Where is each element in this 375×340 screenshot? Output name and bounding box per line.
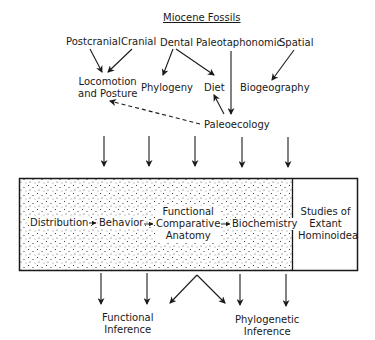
label-postcranial: Postcranial bbox=[66, 36, 121, 48]
phylogenetic-line2: Inference bbox=[235, 326, 299, 338]
locomotion-line1: Locomotion bbox=[78, 76, 137, 88]
label-paleotaphonomic: Paleotaphonomic bbox=[196, 37, 282, 49]
arrow-dental-to-diet bbox=[176, 49, 214, 75]
arrow-cranial-to-locomotion bbox=[108, 49, 132, 72]
diagram-title: Miocene Fossils bbox=[163, 12, 241, 24]
arrow-out-right-branch bbox=[197, 275, 225, 303]
label-studies-of-extant-hominoidea: Studies of Extant Hominoidea bbox=[298, 206, 353, 242]
label-spatial: Spatial bbox=[279, 37, 313, 49]
label-phylogenetic-inference: Phylogenetic Inference bbox=[235, 314, 299, 338]
fca-line3: Anatomy bbox=[155, 230, 221, 242]
functional-line1: Functional bbox=[102, 312, 153, 324]
label-cranial: Cranial bbox=[121, 36, 156, 48]
arrow-paleoecology-to-diet bbox=[214, 95, 224, 114]
arrow-dental-to-phylogeny bbox=[163, 49, 173, 75]
dashed-arrow-paleoecology-to-locomotion bbox=[110, 101, 200, 124]
label-locomotion-and-posture: Locomotion and Posture bbox=[78, 76, 137, 100]
diagram-canvas bbox=[0, 0, 375, 340]
label-dental: Dental bbox=[160, 37, 193, 49]
label-phylogeny: Phylogeny bbox=[141, 82, 193, 94]
label-functional-comparative-anatomy: Functional Comparative Anatomy bbox=[155, 206, 221, 242]
output-arrows bbox=[101, 273, 286, 306]
extant-line3: Hominoidea bbox=[298, 230, 353, 242]
extant-line2: Extant bbox=[298, 218, 353, 230]
fca-line1: Functional bbox=[155, 206, 221, 218]
label-biochemistry: Biochemistry bbox=[231, 218, 298, 230]
extant-line1: Studies of bbox=[298, 206, 353, 218]
functional-line2: Inference bbox=[102, 324, 153, 336]
label-functional-inference: Functional Inference bbox=[102, 312, 153, 336]
input-arrows bbox=[104, 136, 288, 167]
arrow-out-left-branch bbox=[170, 275, 197, 303]
locomotion-line2: and Posture bbox=[78, 88, 137, 100]
label-paleoecology: Paleoecology bbox=[204, 119, 270, 131]
label-diet: Diet bbox=[204, 82, 225, 94]
fca-line2: Comparative bbox=[155, 218, 221, 230]
label-behavior: Behavior bbox=[98, 217, 144, 229]
phylogenetic-line1: Phylogenetic bbox=[235, 314, 299, 326]
label-biogeography: Biogeography bbox=[240, 82, 310, 94]
label-distribution: Distribution bbox=[29, 217, 89, 229]
arrow-spatial-to-biogeography bbox=[272, 50, 294, 80]
arrow-postcranial-to-locomotion bbox=[90, 49, 102, 72]
